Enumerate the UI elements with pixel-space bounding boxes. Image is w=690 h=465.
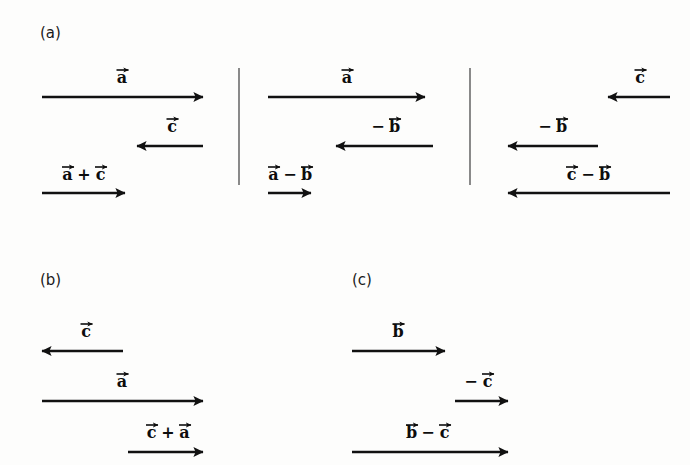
panel-a: (a)aca+ca−ba−bc−bc−b xyxy=(40,24,670,193)
vector-label-part: a xyxy=(268,165,278,184)
a-vector-text: a xyxy=(117,68,129,87)
a3-c-vector: c xyxy=(608,68,670,97)
vector-label-part: a xyxy=(117,372,127,391)
a-vector-text: a xyxy=(342,68,354,87)
c-vector-text: c xyxy=(81,322,93,341)
vector-label-part: c xyxy=(567,165,577,184)
vector-label-part: − xyxy=(371,117,384,136)
figure-canvas: (a)aca+ca−ba−bc−bc−b(b)cac+a(c)b−cb−c xyxy=(0,0,690,465)
vector-figure: (a)aca+ca−ba−bc−bc−b(b)cac+a(c)b−cb−c xyxy=(0,0,690,465)
vector-label-part: b xyxy=(599,165,610,184)
subpanel-a1: aca+c xyxy=(42,68,203,193)
vector-label-part: + xyxy=(77,165,90,184)
c1-b-minus-c-vector: b−c xyxy=(352,423,508,452)
vector-label-part: c xyxy=(167,117,177,136)
vector-label-part: b xyxy=(301,165,312,184)
c1-minus-c-vector: −c xyxy=(455,372,508,401)
a-vector-text: a xyxy=(117,372,129,391)
vector-label-part: c xyxy=(483,372,493,391)
b-vector-text: b xyxy=(392,322,404,341)
c-plus-a-vector-text: c+a xyxy=(146,423,191,442)
a2-a-vector: a xyxy=(268,68,425,97)
b-minus-c-vector-text: b−c xyxy=(406,423,451,442)
subpanel-b1: cac+a xyxy=(42,322,203,452)
c-vector-text: c xyxy=(635,68,647,87)
subpanel-c1: b−cb−c xyxy=(352,322,508,452)
vector-label-part: − xyxy=(421,423,434,442)
subpanel-a2: a−ba−b xyxy=(268,68,433,193)
vector-label-part: a xyxy=(62,165,72,184)
vector-label-part: c xyxy=(635,68,645,87)
vector-label-part: − xyxy=(581,165,594,184)
vector-label-part: a xyxy=(179,423,189,442)
panel-b: (b)cac+a xyxy=(40,271,203,452)
a2-a-minus-b-vector: a−b xyxy=(268,165,313,193)
vector-label-part: b xyxy=(392,322,403,341)
vector-label-part: + xyxy=(161,423,174,442)
vector-label-part: c xyxy=(147,423,157,442)
a-minus-b-vector-text: a−b xyxy=(268,165,313,184)
panel-label-a: (a) xyxy=(40,24,61,42)
b1-c-plus-a-vector: c+a xyxy=(128,423,203,452)
subpanel-a3: c−bc−b xyxy=(508,68,670,193)
a3-minus-b-vector: −b xyxy=(508,117,598,146)
vector-label-part: b xyxy=(406,423,417,442)
diagram-content: (a)aca+ca−ba−bc−bc−b(b)cac+a(c)b−cb−c xyxy=(40,24,670,452)
minus-b-vector-text: −b xyxy=(371,117,401,136)
panel-c: (c)b−cb−c xyxy=(352,271,508,452)
vector-label-part: − xyxy=(464,372,477,391)
minus-b-vector-text: −b xyxy=(538,117,568,136)
vector-label-part: − xyxy=(283,165,296,184)
a1-a-plus-c-vector: a+c xyxy=(42,165,125,193)
b1-a-vector: a xyxy=(42,372,203,401)
a-plus-c-vector-text: a+c xyxy=(62,165,107,184)
vector-label-part: a xyxy=(342,68,352,87)
panel-label-b: (b) xyxy=(40,271,61,289)
a1-c-vector: c xyxy=(137,117,203,146)
a1-a-vector: a xyxy=(42,68,203,97)
vector-label-part: c xyxy=(96,165,106,184)
vector-label-part: b xyxy=(389,117,400,136)
a2-minus-b-vector: −b xyxy=(336,117,433,146)
panel-label-c: (c) xyxy=(352,271,372,289)
b1-c-vector: c xyxy=(42,322,123,351)
vector-label-part: b xyxy=(556,117,567,136)
vector-label-part: c xyxy=(81,322,91,341)
c1-b-vector: b xyxy=(352,322,445,351)
c-minus-b-vector-text: c−b xyxy=(566,165,611,184)
vector-label-part: − xyxy=(538,117,551,136)
c-vector-text: c xyxy=(167,117,179,136)
a3-c-minus-b-vector: c−b xyxy=(508,165,670,193)
vector-label-part: c xyxy=(440,423,450,442)
minus-c-vector-text: −c xyxy=(464,372,494,391)
vector-label-part: a xyxy=(117,68,127,87)
